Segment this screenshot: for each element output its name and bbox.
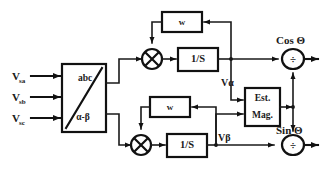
- diagram-svg: V sa V sb V sc abc α-β w w 1/S 1/S Est. …: [0, 0, 320, 174]
- block-diagram-figure: V sa V sb V sc abc α-β w w 1/S 1/S Est. …: [0, 0, 320, 174]
- omega-bottom-label: w: [167, 102, 174, 112]
- divider-bottom-symbol: ÷: [290, 139, 296, 151]
- output-label-cos: Cos Θ: [276, 34, 305, 46]
- wire-omega-top-to-mult: [152, 22, 162, 43]
- integrator-top-label: 1/S: [191, 53, 205, 64]
- signal-label-valpha: Vα: [221, 77, 234, 88]
- divider-top-symbol: ÷: [290, 53, 296, 65]
- wire-alpha-branch-to-top-mult: [106, 59, 142, 83]
- input-label-vsc-sub: sc: [19, 119, 25, 127]
- transform-label-alphabeta: α-β: [76, 112, 89, 122]
- est-mag-label-line2: Mag.: [252, 110, 273, 120]
- signal-label-vbeta: Vβ: [218, 132, 231, 143]
- integrator-bottom-label: 1/S: [180, 139, 194, 150]
- input-label-vsb-sub: sb: [19, 98, 26, 106]
- transform-label-abc: abc: [78, 73, 92, 83]
- input-label-vsa-sub: sa: [19, 77, 26, 85]
- output-label-sin: Sin Θ: [276, 124, 303, 136]
- est-mag-label-line1: Est.: [255, 93, 271, 103]
- omega-top-label: w: [179, 17, 186, 27]
- wire-omega-bottom-to-mult: [141, 107, 150, 129]
- wire-beta-branch-to-bottom-mult: [106, 114, 131, 145]
